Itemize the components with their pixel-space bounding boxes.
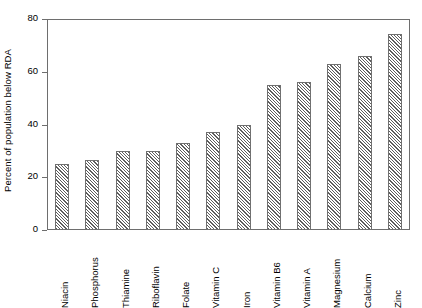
x-axis-tick-label: Iron bbox=[241, 292, 252, 308]
y-axis-tick-label: 20 bbox=[27, 170, 38, 181]
y-axis-title-text: Percent of population below RDA bbox=[3, 48, 14, 191]
bar-slot bbox=[259, 19, 289, 230]
bar-slot bbox=[108, 19, 138, 230]
x-axis-tick-label: Vitamin A bbox=[301, 268, 312, 308]
bar[interactable] bbox=[116, 151, 130, 230]
bar-slot bbox=[198, 19, 228, 230]
x-axis-tick-label: Folate bbox=[180, 282, 191, 308]
bar-slot bbox=[168, 19, 198, 230]
y-axis-tick-label: 60 bbox=[27, 65, 38, 76]
x-axis-tick: Zinc bbox=[380, 234, 410, 301]
y-axis-tick-label: 80 bbox=[27, 12, 38, 23]
x-axis-tick-labels: NiacinPhosphorusThiamineRiboflavinFolate… bbox=[47, 234, 410, 301]
bar[interactable] bbox=[146, 151, 160, 230]
y-axis-tick-mark bbox=[42, 230, 47, 231]
bar[interactable] bbox=[55, 164, 69, 230]
bar[interactable] bbox=[237, 125, 251, 231]
bar[interactable] bbox=[206, 132, 220, 230]
bar-slot bbox=[289, 19, 319, 230]
bar-slot bbox=[319, 19, 349, 230]
x-axis-tick: Vitamin C bbox=[198, 234, 228, 301]
bar-slot bbox=[350, 19, 380, 230]
bar[interactable] bbox=[327, 64, 341, 230]
x-axis-tick: Folate bbox=[168, 234, 198, 301]
bar-slot bbox=[47, 19, 77, 230]
x-axis-tick: Iron bbox=[229, 234, 259, 301]
x-axis-tick-label: Vitamin B6 bbox=[271, 262, 282, 308]
x-axis-tick-label: Riboflavin bbox=[150, 266, 161, 308]
y-axis-tick-label: 40 bbox=[27, 118, 38, 129]
x-axis-tick-label: Niacin bbox=[59, 282, 70, 308]
bar-slot bbox=[229, 19, 259, 230]
x-axis-tick: Magnesium bbox=[319, 234, 349, 301]
y-axis-tick-label: 0 bbox=[33, 223, 38, 234]
bar[interactable] bbox=[176, 143, 190, 230]
x-axis-tick-label: Calcium bbox=[362, 274, 373, 308]
bar-series bbox=[47, 19, 410, 230]
bar[interactable] bbox=[267, 85, 281, 230]
x-axis-tick-label: Thiamine bbox=[120, 269, 131, 308]
x-axis-tick: Riboflavin bbox=[138, 234, 168, 301]
x-axis-tick: Niacin bbox=[47, 234, 77, 301]
x-axis-tick: Phosphorus bbox=[77, 234, 107, 301]
bar[interactable] bbox=[297, 82, 311, 230]
x-axis-tick-label: Vitamin C bbox=[210, 267, 221, 308]
x-axis-tick-label: Phosphorus bbox=[89, 257, 100, 308]
x-axis-tick: Calcium bbox=[350, 234, 380, 301]
bar[interactable] bbox=[388, 34, 402, 230]
bar-slot bbox=[138, 19, 168, 230]
bar[interactable] bbox=[85, 160, 99, 230]
bar-slot bbox=[380, 19, 410, 230]
x-axis-tick-label: Magnesium bbox=[331, 259, 342, 308]
bar-slot bbox=[77, 19, 107, 230]
x-axis-tick: Thiamine bbox=[108, 234, 138, 301]
y-axis-title: Percent of population below RDA bbox=[0, 0, 16, 240]
bar[interactable] bbox=[358, 56, 372, 230]
x-axis-tick-label: Zinc bbox=[392, 290, 403, 308]
x-axis-tick: Vitamin B6 bbox=[259, 234, 289, 301]
x-axis-tick: Vitamin A bbox=[289, 234, 319, 301]
